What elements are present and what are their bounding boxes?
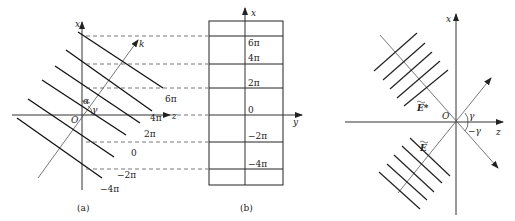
phase-label-b: 0 (248, 105, 254, 115)
panel-c: x z O γ −γ E* E (345, 14, 503, 215)
y-axis-label-b: y (292, 117, 299, 127)
phase-label-a: 0 (131, 148, 137, 158)
x-axis-label-a: x (75, 19, 80, 29)
phase-label-b: 6π (248, 38, 260, 48)
phase-label-b: 4π (248, 53, 260, 63)
gamma-label-c: γ (469, 111, 475, 121)
wavefronts-e (379, 138, 450, 209)
phase-label-b: −2π (248, 131, 267, 141)
gamma-label-a: γ (92, 105, 98, 115)
svg-text:E: E (419, 143, 427, 153)
origin-label-c: O (442, 111, 450, 121)
phase-planes-b (209, 36, 283, 169)
k-vector (38, 40, 138, 178)
figure: x z O k α γ 6π 4π 2π 0 −2π −4π (a) x y 6… (0, 0, 515, 221)
k-conj-direction (380, 35, 498, 168)
panel-a: x z O k α γ 6π 4π 2π 0 −2π −4π (a) (12, 19, 208, 213)
wavefronts-a (17, 32, 163, 178)
k-label: k (139, 39, 144, 49)
neg-gamma-label-c: −γ (468, 126, 482, 136)
projection-lines (86, 36, 208, 169)
panel-b: x y 6π 4π 2π 0 −2π −4π (b) (209, 8, 302, 213)
panel-b-frame (209, 21, 283, 185)
x-axis-label-c: x (446, 14, 451, 24)
phase-label-b: −4π (248, 159, 267, 169)
phase-label-b: 2π (248, 78, 260, 88)
e-label: E (419, 141, 428, 153)
caption-a: (a) (77, 203, 89, 213)
caption-b: (b) (240, 203, 253, 213)
z-axis-label-c: z (495, 127, 501, 137)
phase-label-a: 4π (150, 113, 162, 123)
x-axis-label-b: x (251, 8, 256, 18)
z-axis-label-a: z (171, 111, 177, 121)
e-conj-label: E* (416, 101, 429, 113)
phase-label-a: 2π (144, 129, 156, 139)
phase-label-a: 6π (165, 94, 177, 104)
phase-label-a: −2π (117, 170, 136, 180)
origin-label-a: O (71, 115, 79, 125)
svg-text:E*: E* (416, 103, 429, 113)
phase-label-a: −4π (100, 184, 119, 194)
alpha-label: α (83, 96, 89, 106)
